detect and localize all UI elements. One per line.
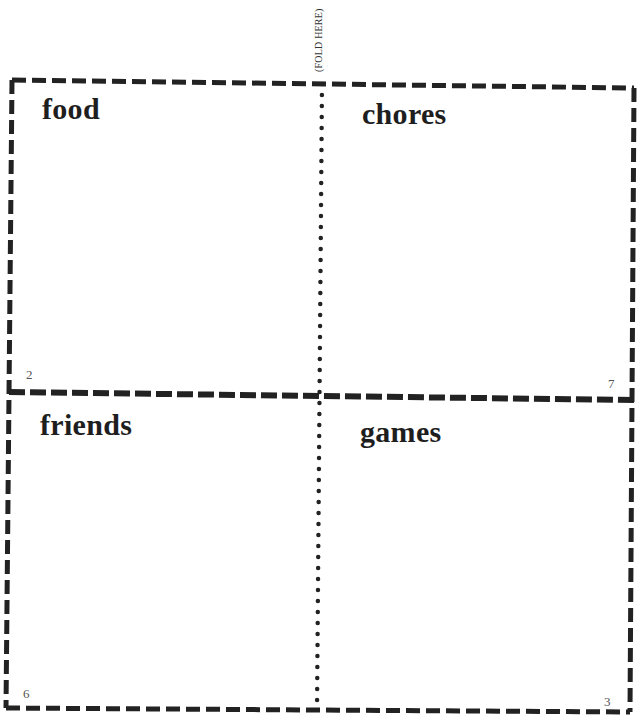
- panel-title-friends: friends: [40, 408, 132, 442]
- panel-title-chores: chores: [362, 97, 447, 131]
- page-number-7: 7: [608, 376, 615, 392]
- page-number-3: 3: [604, 694, 611, 710]
- cut-line-middle: [9, 392, 634, 400]
- fold-label: (FOLD HERE): [311, 2, 325, 78]
- page-number-6: 6: [23, 686, 30, 702]
- panel-title-games: games: [360, 415, 441, 449]
- page-number-2: 2: [26, 367, 33, 383]
- panel-title-food: food: [42, 92, 100, 126]
- cut-line-bottom: [6, 708, 630, 712]
